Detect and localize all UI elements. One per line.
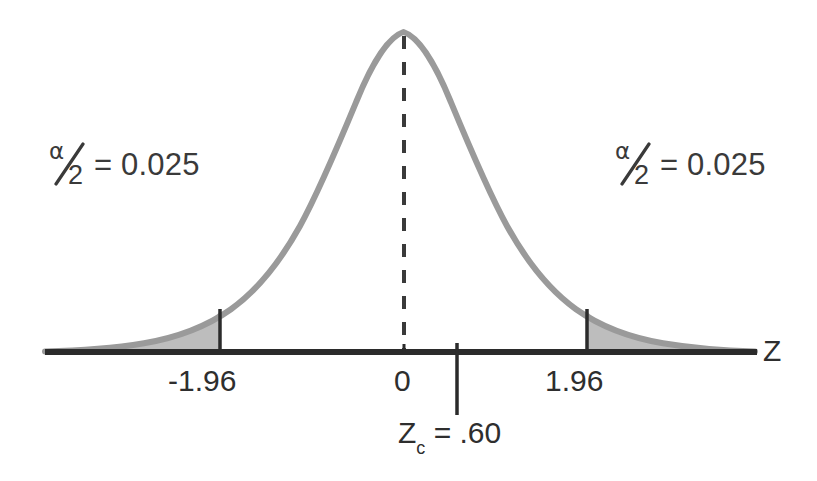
alpha-over-two-label-right: α 2 = 0.025 [614, 140, 766, 188]
zc-test-statistic-label: Zc = .60 [398, 418, 501, 453]
fraction-alpha-over-two-left: α 2 [48, 140, 88, 188]
alpha-label-value-right: = 0.025 [660, 149, 766, 180]
alpha-label-value-left: = 0.025 [94, 149, 200, 180]
x-tick-label-zero: 0 [394, 366, 411, 396]
bell-curve [45, 32, 755, 352]
zc-subscript: c [416, 438, 425, 458]
fraction-denominator: 2 [68, 162, 83, 189]
x-axis-label: Z [763, 336, 781, 366]
alpha-over-two-label-left: α 2 = 0.025 [48, 140, 200, 188]
fraction-alpha-over-two-right: α 2 [614, 140, 654, 188]
zc-value: = .60 [434, 416, 502, 449]
x-tick-label-positive-1-96: 1.96 [545, 366, 603, 396]
zc-symbol: Z [398, 416, 416, 449]
fraction-denominator: 2 [634, 162, 649, 189]
distribution-plot [0, 0, 817, 481]
normal-distribution-figure: α 2 = 0.025 α 2 = 0.025 -1.96 0 1.96 Z Z… [0, 0, 817, 481]
x-tick-label-negative-1-96: -1.96 [168, 366, 236, 396]
